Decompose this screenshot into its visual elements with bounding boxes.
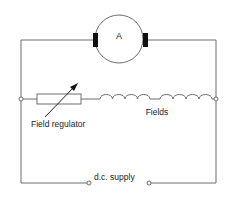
- field-regulator: Field regulator: [31, 83, 86, 129]
- coil-group-2: [160, 95, 214, 100]
- top-left-wire: [21, 40, 95, 99]
- left-brush: [93, 33, 98, 47]
- bottom-left-wire: [21, 99, 87, 183]
- armature-label: A: [116, 31, 122, 41]
- field-regulator-label: Field regulator: [31, 119, 86, 129]
- armature: A: [93, 15, 148, 63]
- field-coils: Fields: [100, 95, 214, 118]
- right-brush: [143, 33, 148, 47]
- supply-label: d.c. supply: [94, 172, 135, 182]
- top-right-wire: [146, 40, 216, 99]
- dc-supply: d.c. supply: [87, 172, 151, 185]
- circuit-diagram: A Field regulator Fields d.c. supply: [0, 0, 232, 197]
- fields-label: Fields: [146, 107, 169, 117]
- right-junction: [214, 97, 218, 101]
- supply-terminal-right: [147, 181, 151, 185]
- left-junction: [19, 97, 23, 101]
- supply-terminal-left: [87, 181, 91, 185]
- coil-group-1: [100, 95, 150, 100]
